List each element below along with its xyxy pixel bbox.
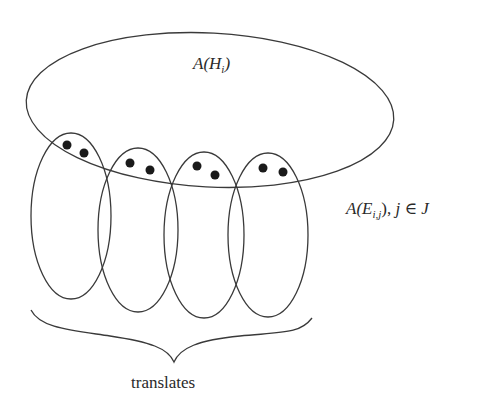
label-index-set: J [421,199,429,218]
translates-label: translates [131,373,195,393]
element-of-symbol: ∈ [400,199,421,218]
label-subscript: i,j [372,208,381,220]
intersection-dot [146,166,155,175]
intersection-dot [211,171,220,180]
intersection-dot [63,141,72,150]
label-text: ), [381,199,395,218]
intersection-dot [126,159,135,168]
translates-brace [31,310,312,362]
translate-sets-label: A(Ei,j), j ∈ J [346,198,429,220]
label-text: A(H [193,54,221,73]
intersection-dot [193,162,202,171]
intersection-dot [259,164,268,173]
big-set-ellipse [22,23,398,196]
intersection-dot [279,168,288,177]
big-set-label: A(Hi) [193,54,230,75]
label-text: ) [224,54,230,73]
intersection-dot [80,149,89,158]
translate-ellipse-3 [164,152,244,318]
translate-ellipse-4 [228,153,308,317]
label-text: A(E [346,199,372,218]
